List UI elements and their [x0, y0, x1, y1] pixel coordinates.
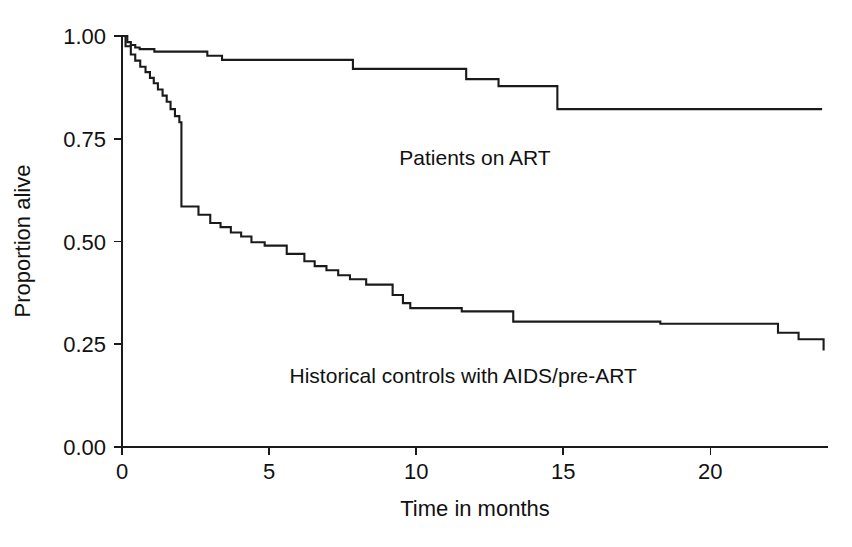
x-tick-label: 0 — [116, 459, 128, 484]
survival-chart-canvas: 0.000.250.500.751.00 05101520 Patients o… — [0, 0, 852, 547]
kaplan-meier-figure: 0.000.250.500.751.00 05101520 Patients o… — [0, 0, 852, 547]
x-tick-label: 15 — [551, 459, 575, 484]
survival-curve-patients-on-art — [122, 36, 822, 109]
x-tick-label: 5 — [263, 459, 275, 484]
survival-curves-group — [122, 36, 824, 350]
x-axis-title: Time in months — [400, 496, 550, 521]
series-label-historical-controls: Historical controls with AIDS/pre-ART — [290, 364, 638, 387]
x-tick-label: 10 — [404, 459, 428, 484]
x-axis-ticks: 05101520 — [116, 447, 723, 484]
y-tick-label: 1.00 — [63, 24, 106, 49]
y-tick-label: 0.25 — [63, 332, 106, 357]
series-label-patients-on-art: Patients on ART — [399, 146, 551, 169]
y-tick-label: 0.75 — [63, 127, 106, 152]
y-axis-title: Proportion alive — [10, 165, 35, 318]
y-tick-label: 0.50 — [63, 230, 106, 255]
series-annotations-group: Patients on ART Historical controls with… — [290, 146, 638, 387]
survival-curve-historical-controls — [122, 36, 824, 350]
y-axis-ticks: 0.000.250.500.751.00 — [63, 24, 122, 460]
y-tick-label: 0.00 — [63, 435, 106, 460]
x-tick-label: 20 — [698, 459, 722, 484]
